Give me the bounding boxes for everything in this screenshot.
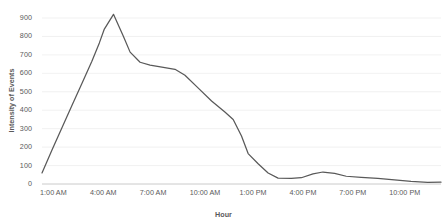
- x-tick-label: 10:00 AM: [190, 188, 221, 197]
- x-tick-label: 10:00 PM: [389, 188, 420, 197]
- y-axis-title: Intensity of Events: [7, 58, 16, 144]
- data-series-line: [42, 14, 441, 182]
- x-axis-title: Hour: [0, 210, 447, 219]
- x-tick-label: 1:00 AM: [40, 188, 67, 197]
- y-tick-label: 100: [6, 161, 32, 170]
- y-tick-label: 800: [6, 31, 32, 40]
- line-chart: 0100200300400500600700800900 1:00 AM4:00…: [0, 0, 447, 222]
- x-tick-label: 4:00 PM: [289, 188, 316, 197]
- gridlines: [42, 18, 441, 166]
- chart-plot-area: [0, 0, 447, 222]
- x-tick-label: 7:00 AM: [140, 188, 167, 197]
- y-tick-label: 0: [6, 179, 32, 188]
- x-tick-label: 1:00 PM: [240, 188, 267, 197]
- x-tick-label: 7:00 PM: [339, 188, 366, 197]
- y-tick-label: 900: [6, 13, 32, 22]
- x-tick-label: 4:00 AM: [90, 188, 117, 197]
